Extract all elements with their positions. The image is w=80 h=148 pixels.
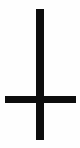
image-canvas: Inverted Cross A simple black cross glyp… [0,0,80,148]
cross-horizontal-bar [5,96,76,103]
cross-vertical-bar [36,9,44,140]
cross-figure: Inverted Cross A simple black cross glyp… [0,0,80,148]
